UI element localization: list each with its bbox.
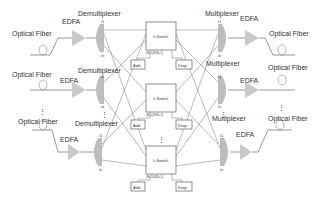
ellipsis-switches: ⋮: [158, 136, 165, 143]
optical-fiber-label: Optical Fiber: [18, 118, 58, 126]
demultiplexer-icon: [96, 76, 104, 104]
multiplexer-label: Multiplexer: [212, 115, 247, 123]
lambda-n-label: λn: [218, 105, 222, 109]
drop-label: Drop: [178, 63, 187, 68]
fiber-coil-icon: [39, 80, 47, 90]
optical-fiber-label: Optical Fiber: [12, 71, 52, 79]
fiber-line: [252, 130, 292, 152]
lambda-n-label: λn: [218, 54, 222, 58]
add-label: Add: [133, 123, 140, 128]
lambda-switch-3: λ-Switch (N+1)X(N+1) Add Drop: [131, 146, 192, 191]
edfa-label: EDFA: [60, 136, 79, 143]
ellipsis-right: ⋮: [278, 104, 285, 111]
output-row-3: Multiplexer EDFA Optical Fiber: [212, 115, 308, 166]
switch-size-label: (N+1)X(N+1): [146, 175, 163, 179]
edfa-label: EDFA: [60, 77, 79, 84]
lambda-n-label: λn: [99, 168, 103, 172]
lambda-switch-1: λ-Switch (N+1)X(N+1) Add Drop: [131, 22, 192, 69]
lambda-n-label: λn: [101, 105, 105, 109]
switch-label: λ-Switch: [153, 34, 168, 39]
add-label: Add: [133, 185, 140, 190]
lambda-1-label: λ1: [101, 20, 105, 24]
edfa-amplifier-icon: [68, 144, 80, 160]
edfa-amplifier-icon: [245, 30, 259, 46]
fiber-line: [30, 38, 72, 55]
optical-fiber-label: Optical Fiber: [268, 115, 308, 123]
lambda-1-label: λ1: [99, 134, 103, 138]
lambda-n-label: λn: [101, 54, 105, 58]
multiplexer-label: Multiplexer: [205, 10, 240, 18]
switch-size-label: (N+1)X(N+1): [146, 51, 163, 55]
lambda-n-label: λn: [220, 168, 224, 172]
add-label: Add: [133, 63, 140, 68]
ellipsis-demux: ⋮: [101, 111, 108, 118]
ellipsis-left: ⋮: [39, 108, 46, 115]
drop-label: Drop: [178, 123, 187, 128]
input-row-2: Optical Fiber EDFA Demultiplexer: [12, 67, 121, 104]
demultiplexer-icon: [96, 24, 104, 52]
multiplexer-icon: [220, 138, 228, 166]
optical-fiber-label: Optical Fiber: [269, 30, 309, 38]
switch-size-label: (N+1)X(N+1): [146, 113, 163, 117]
edfa-amplifier-icon: [245, 82, 259, 98]
edfa-label: EDFA: [236, 131, 255, 138]
fiber-coil-icon: [39, 45, 47, 55]
multiplexer-icon: [218, 76, 226, 104]
optical-fiber-label: Optical Fiber: [268, 64, 308, 72]
lambda-1-label: λ1: [101, 75, 105, 79]
input-row-1: Optical Fiber EDFA Demultiplexer: [12, 10, 121, 55]
fiber-coil-icon: [278, 45, 286, 55]
demultiplexer-label: Demultiplexer: [78, 10, 121, 18]
edfa-label: EDFA: [240, 15, 259, 22]
fiber-coil-icon: [278, 75, 286, 85]
edfa-label: EDFA: [240, 77, 259, 84]
optical-fiber-label: Optical Fiber: [12, 30, 52, 38]
output-row-1: Multiplexer EDFA Optical Fiber: [205, 10, 309, 55]
lambda-1-label: λ1: [218, 20, 222, 24]
edfa-amplifier-icon: [72, 30, 86, 46]
optical-node-diagram: Optical Fiber EDFA Demultiplexer Optical…: [0, 0, 325, 200]
multiplexer-label: Multiplexer: [206, 60, 241, 68]
switch-label: λ-Switch: [153, 158, 168, 163]
lambda-1-label: λ1: [220, 134, 224, 138]
multiplexer-icon: [218, 24, 226, 52]
edfa-amplifier-icon: [72, 82, 86, 98]
output-row-2: Multiplexer EDFA Optical Fiber: [206, 60, 308, 104]
demultiplexer-icon: [94, 138, 102, 166]
lambda-switch-2: λ-Switch (N+1)X(N+1) Add Drop: [131, 84, 192, 129]
input-row-3: Optical Fiber EDFA Demultiplexer: [18, 118, 118, 166]
drop-label: Drop: [178, 185, 187, 190]
edfa-amplifier-icon: [240, 144, 252, 160]
fiber-line: [259, 38, 295, 55]
lambda-1-label: λ1: [218, 75, 222, 79]
demultiplexer-label: Demultiplexer: [75, 120, 118, 128]
switch-label: λ-Switch: [153, 96, 168, 101]
edfa-label: EDFA: [62, 18, 81, 25]
